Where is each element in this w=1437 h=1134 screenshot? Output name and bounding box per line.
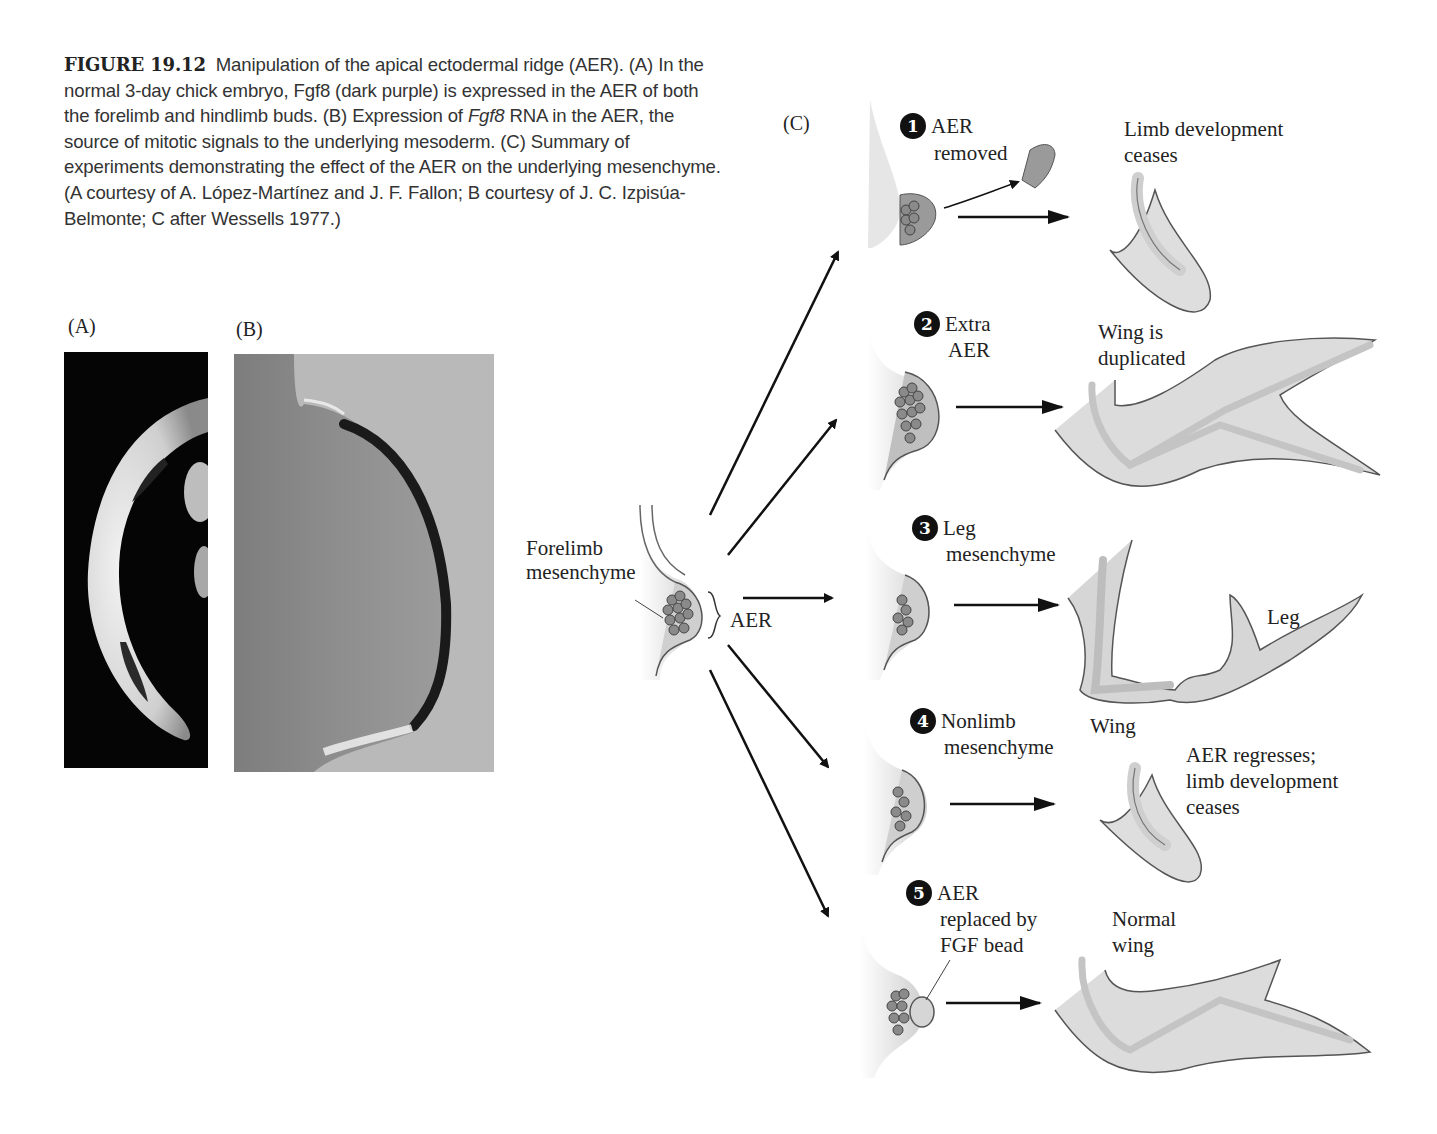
aer-label: AER (730, 608, 772, 633)
exp-5-label-line-2: replaced by (940, 907, 1037, 932)
exp-2-bud (868, 315, 939, 490)
exp-4-result-line-1: AER regresses; (1186, 743, 1316, 768)
exp-4-label-line-1: Nonlimb (941, 709, 1016, 733)
exp-4-label-line-2: mesenchyme (944, 735, 1054, 760)
exp-1-result-stump (1110, 178, 1210, 312)
exp-3-label: 3Leg (912, 515, 976, 541)
exp-4-result-line-3: ceases (1186, 795, 1240, 820)
exp-5-label-line-3: FGF bead (940, 933, 1023, 958)
step-3-badge: 3 (912, 515, 938, 541)
exp-5-result-line-1: Normal (1112, 907, 1176, 932)
exp-4-result-line-2: limb development (1186, 769, 1338, 794)
exp-1-label-line-2: removed (934, 141, 1007, 166)
exp-5-bud (860, 908, 950, 1078)
exp-5-label-line-1: AER (937, 881, 979, 905)
exp-1-label: 1AER (900, 113, 973, 139)
exp-2-label-line-2: AER (948, 338, 990, 363)
exp-2-result-line-2: duplicated (1098, 346, 1185, 371)
exp-3-result-wing-leg (1068, 540, 1362, 703)
exp-4-label: 4Nonlimb (910, 708, 1016, 734)
step-4-badge: 4 (910, 708, 936, 734)
arrow-to-exp-4 (728, 645, 828, 767)
exp-5-result-line-2: wing (1112, 933, 1154, 958)
exp-3-result-wing: Wing (1090, 714, 1136, 739)
fgf-bead (910, 997, 934, 1027)
arrow-to-exp-5 (710, 670, 828, 916)
exp-2-label-line-1: Extra (945, 312, 990, 336)
exp-1-result-line-2: ceases (1124, 143, 1178, 168)
exp-2-result-line-1: Wing is (1098, 320, 1163, 345)
exp-2-label: 2Extra (914, 311, 990, 337)
forelimb-bud-diagram (635, 505, 720, 680)
arrow-to-exp-1 (710, 252, 838, 515)
exp-5-label: 5AER (906, 880, 979, 906)
exp-3-result-leg: Leg (1267, 605, 1300, 630)
arrow-to-exp-2 (728, 420, 836, 555)
diagram-c (0, 0, 1437, 1134)
exp-5-result-normal-wing (1055, 960, 1370, 1073)
step-1-badge: 1 (900, 113, 926, 139)
step-2-badge: 2 (914, 311, 940, 337)
mesenchyme-label: mesenchyme (526, 560, 636, 585)
exp-3-label-line-2: mesenchyme (946, 542, 1056, 567)
step-5-badge: 5 (906, 880, 932, 906)
exp-3-label-line-1: Leg (943, 516, 976, 540)
forelimb-label: Forelimb (526, 536, 603, 561)
exp-1-label-line-1: AER (931, 114, 973, 138)
exp-1-result-line-1: Limb development (1124, 117, 1283, 142)
